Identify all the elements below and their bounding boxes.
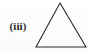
figure-panel: (iii) [0, 0, 89, 53]
triangle-diagram [0, 0, 89, 53]
triangle-icon [36, 3, 86, 47]
